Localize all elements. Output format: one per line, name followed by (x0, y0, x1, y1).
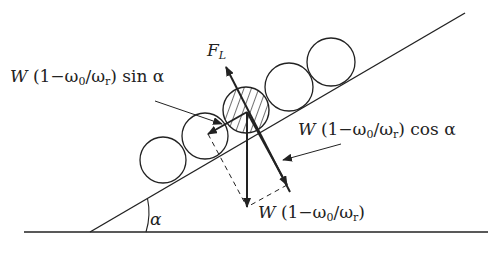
weight-mid: /ω (333, 202, 353, 222)
roller-4 (265, 63, 313, 111)
angle-arc (146, 199, 149, 233)
dashed-sin-to-weight (208, 134, 247, 207)
sin-suffix: ) sin α (110, 66, 164, 86)
cos-suffix: ) cos α (398, 119, 455, 139)
angle-symbol: α (150, 209, 161, 229)
cos-component-arrow (247, 112, 287, 185)
weight-suffix: ) (358, 202, 365, 222)
lift-force-label: FL (207, 42, 226, 61)
roller-1 (140, 137, 186, 183)
weight-w: W (258, 202, 275, 222)
weight-label: W (1−ω0/ωr) (258, 204, 365, 223)
roller-5 (307, 38, 355, 86)
weight-body: (1−ω (281, 202, 327, 222)
cos-mid: /ω (373, 119, 393, 139)
cos-w: W (298, 119, 315, 139)
cos-component-label: W (1−ω0/ωr) cos α (298, 121, 456, 140)
sin-w: W (10, 66, 27, 86)
cos-body: (1−ω (321, 119, 367, 139)
sin-body: (1−ω (33, 66, 79, 86)
roller-2 (182, 113, 228, 159)
lift-force-subscript: L (219, 49, 226, 62)
cos-leader-line (283, 144, 341, 160)
sin-component-label: W (1−ω0/ωr) sin α (10, 68, 164, 87)
diagram-canvas: FL W (1−ω0/ωr) sin α W (1−ω0/ωr) cos α W… (0, 0, 499, 253)
lift-force-symbol: F (207, 40, 219, 60)
angle-label: α (150, 211, 161, 228)
sin-mid: /ω (85, 66, 105, 86)
